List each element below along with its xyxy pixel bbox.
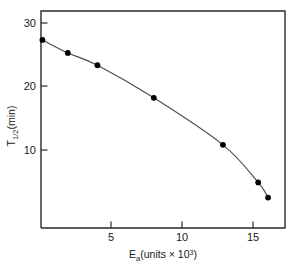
x-axis-title-base: E <box>129 248 136 260</box>
x-tick-label-10: 10 <box>176 231 188 243</box>
data-point <box>65 50 71 56</box>
y-tick-label-10: 10 <box>24 144 36 156</box>
data-point <box>220 142 226 148</box>
data-point <box>40 37 46 43</box>
y-tick-label-30: 30 <box>24 17 36 29</box>
data-point <box>151 95 157 101</box>
y-axis-title-rest: (min) <box>5 106 17 130</box>
y-tick-label-20: 20 <box>24 80 36 92</box>
x-tick-label-5: 5 <box>108 231 114 243</box>
data-markers <box>40 37 271 200</box>
data-curve <box>42 40 268 198</box>
x-tick-label-15: 15 <box>247 231 259 243</box>
x-axis-title-tail: ) <box>193 248 197 260</box>
data-point <box>265 195 271 201</box>
x-axis-title-rest: (units × 10 <box>140 248 189 260</box>
plot-canvas: 30 20 10 5 10 15 Ea(units × 103) T1/2(mi… <box>0 0 305 267</box>
chart-figure: 30 20 10 5 10 15 Ea(units × 103) T1/2(mi… <box>0 0 305 267</box>
y-axis-title-sub: 1/2 <box>11 130 20 140</box>
plot-frame <box>41 11 285 228</box>
x-axis-ticks <box>111 222 253 229</box>
y-axis-title: T1/2(min) <box>5 106 20 147</box>
data-point <box>95 62 101 68</box>
x-axis-title: Ea(units × 103) <box>129 248 197 263</box>
data-point <box>255 180 261 186</box>
